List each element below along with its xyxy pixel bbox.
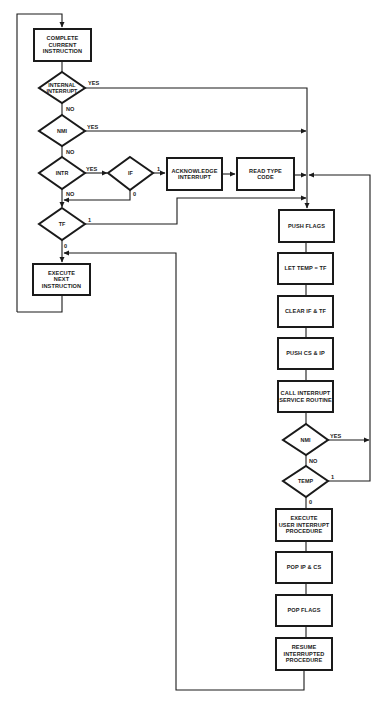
edge-label-if-zero: 0 xyxy=(133,191,136,197)
box-push-flags: PUSH FLAGS xyxy=(278,209,335,243)
box-execute-user-interrupt-procedure: EXECUTE USER INTERRUPT PROCEDURE xyxy=(275,508,333,542)
edge-label-tf-one: 1 xyxy=(88,217,91,223)
edge-label-internal-no: NO xyxy=(66,106,74,112)
edge-label-if-one: 1 xyxy=(157,166,160,172)
box-clear-if-tf: CLEAR IF & TF xyxy=(277,295,334,328)
decision-label-internal-interrupt: INTERNAL INTERRUPT xyxy=(39,80,85,96)
edge-label-nmi1-no: NO xyxy=(66,149,74,155)
box-call-interrupt-service-routine: CALL INTERRUPT SERVICE ROUTINE xyxy=(277,380,334,413)
decision-label-temp: TEMP xyxy=(283,477,328,485)
box-resume-interrupted-procedure: RESUME INTERRUPTED PROCEDURE xyxy=(275,637,333,671)
box-complete-current-instruction: COMPLETE CURRENT INSTRUCTION xyxy=(33,28,92,62)
edge-label-nmi2-no: NO xyxy=(309,458,317,464)
edge-label-nmi2-yes: YES xyxy=(330,433,341,439)
edge-label-tf-zero: 0 xyxy=(64,243,67,249)
box-pop-ip-cs: POP IP & CS xyxy=(275,551,333,584)
box-execute-next-instruction: EXECUTE NEXT INSTRUCTION xyxy=(32,263,91,296)
decision-label-intr: INTR xyxy=(39,169,85,177)
box-push-cs-ip: PUSH CS & IP xyxy=(277,337,334,370)
decision-label-nmi-1: NMI xyxy=(39,127,85,135)
decision-label-nmi-2: NMI xyxy=(283,436,328,444)
box-acknowledge-interrupt: ACKNOWLEDGE INTERRUPT xyxy=(166,157,223,191)
edge-label-nmi1-yes: YES xyxy=(87,124,98,130)
edge-label-internal-yes: YES xyxy=(88,80,99,86)
box-let-temp-tf: LET TEMP = TF xyxy=(277,252,334,285)
decision-label-if: IF xyxy=(108,169,153,177)
box-read-type-code: READ TYPE CODE xyxy=(236,157,295,191)
edge-label-intr-no: NO xyxy=(66,191,74,197)
edge-label-temp-one: 1 xyxy=(331,474,334,480)
box-pop-flags: POP FLAGS xyxy=(275,594,333,627)
decision-label-tf: TF xyxy=(39,220,85,228)
edge-label-intr-yes: YES xyxy=(86,166,97,172)
edge-label-temp-zero: 0 xyxy=(309,499,312,505)
